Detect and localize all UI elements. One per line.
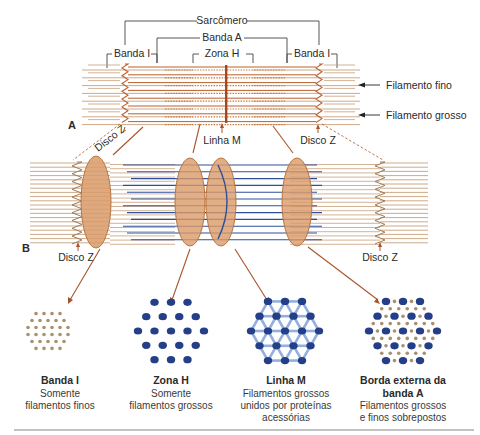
svg-text:e finos sobrepostos: e finos sobrepostos [360, 412, 447, 423]
svg-text:Borda externa da: Borda externa da [360, 374, 446, 386]
label-thick-filament: Filamento grosso [386, 109, 467, 121]
svg-text:Somente: Somente [151, 388, 191, 399]
label-i-band-left: Banda I [114, 47, 150, 59]
caption-a-band-edge: Borda externa da banda A Filamentos gros… [360, 374, 447, 423]
label-z-disc-top: Disco Z [300, 134, 336, 146]
svg-text:banda A: banda A [382, 387, 423, 399]
svg-text:Filamentos grossos: Filamentos grossos [360, 400, 447, 411]
panel-label-a: A [68, 119, 76, 131]
label-sarcomere: Sarcômero [196, 14, 248, 26]
svg-text:Zona H: Zona H [153, 374, 189, 386]
section-disc-a-band-edge [282, 158, 312, 246]
svg-text:acessórias: acessórias [262, 412, 310, 423]
m-line-a [225, 65, 227, 123]
label-z-disc-diagonal: Disco Z [92, 122, 128, 154]
sarcomere-diagram: Sarcômero Banda A Banda I Zona H Banda I [0, 0, 480, 435]
svg-text:Banda I: Banda I [41, 374, 79, 386]
svg-text:filamentos finos: filamentos finos [25, 400, 94, 411]
label-h-zone: Zona H [205, 47, 239, 59]
pointer-thin-filament [358, 83, 380, 88]
panel-a: Sarcômero Banda A Banda I Zona H Banda I [68, 14, 467, 160]
section-disc-i-band [81, 156, 111, 248]
caption-i-band: Banda I Somente filamentos finos [25, 374, 94, 411]
caption-m-line: Linha M Filamentos grossos unidos por pr… [240, 374, 331, 423]
label-z-disc-right: Disco Z [362, 251, 398, 263]
section-disc-h-zone [175, 158, 205, 246]
svg-text:Somente: Somente [40, 388, 80, 399]
label-m-line: Linha M [203, 134, 240, 146]
callout-arrows-bottom [70, 247, 378, 300]
svg-text:filamentos grossos: filamentos grossos [129, 400, 212, 411]
pointer-thick-filament [358, 113, 380, 118]
caption-h-zone: Zona H Somente filamentos grossos [129, 374, 212, 411]
label-a-band: Banda A [202, 31, 242, 43]
label-i-band-right: Banda I [294, 47, 330, 59]
svg-text:Linha M: Linha M [266, 374, 306, 386]
svg-text:Filamentos grossos: Filamentos grossos [243, 388, 330, 399]
label-z-disc-left: Disco Z [58, 251, 94, 263]
panel-label-b: B [22, 242, 30, 254]
panel-b: B Disco Z Disco Z [22, 156, 428, 304]
z-disc-b-left [72, 162, 82, 244]
label-thin-filament: Filamento fino [386, 79, 452, 91]
svg-text:unidos por proteínas: unidos por proteínas [240, 400, 331, 411]
cross-sections [26, 298, 441, 364]
